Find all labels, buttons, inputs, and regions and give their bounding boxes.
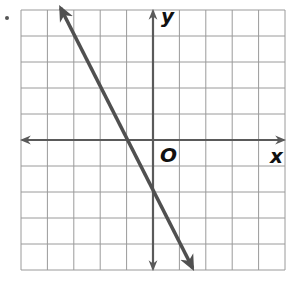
coordinate-graph [0, 0, 297, 284]
x-axis-label: x [270, 146, 283, 166]
y-axis-label: y [161, 6, 174, 26]
origin-label: O [160, 145, 177, 165]
